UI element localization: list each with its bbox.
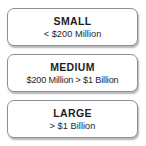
tier-title: SMALL (54, 15, 92, 27)
company-size-tier-diagram: SMALL < $200 Million MEDIUM $200 Million… (0, 0, 146, 146)
tier-title: MEDIUM (50, 61, 95, 73)
tier-range: $200 Million > $1 Billion (26, 74, 118, 86)
tier-title: LARGE (53, 107, 92, 119)
tier-range: < $200 Million (44, 28, 102, 40)
tier-card-medium[interactable]: MEDIUM $200 Million > $1 Billion (7, 54, 138, 92)
tier-card-small[interactable]: SMALL < $200 Million (7, 8, 138, 46)
tier-range: > $1 Billion (50, 120, 96, 132)
tier-card-large[interactable]: LARGE > $1 Billion (7, 100, 138, 138)
